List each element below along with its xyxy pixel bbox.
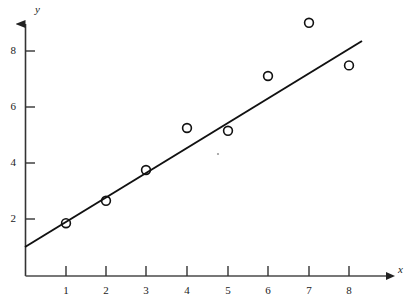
x-tick-label-1: 1 — [58, 285, 74, 296]
data-point — [264, 72, 273, 81]
stray-mark — [217, 153, 219, 155]
regression-line — [25, 41, 362, 247]
y-axis-title: y — [35, 4, 40, 15]
x-tick-label-2: 2 — [98, 285, 114, 296]
x-tick-label-3: 3 — [138, 285, 154, 296]
x-axis-title: x — [398, 264, 403, 275]
y-tick-label-6: 6 — [4, 101, 16, 112]
y-tick-label-8: 8 — [4, 45, 16, 56]
y-tick-label-4: 4 — [4, 157, 16, 168]
x-axis-ticks — [66, 266, 349, 276]
x-tick-label-7: 7 — [301, 285, 317, 296]
scatter-plot-figure: 2 4 6 8 1 2 3 4 5 6 7 8 y x — [0, 0, 411, 303]
data-point — [224, 126, 233, 135]
y-tick-label-2: 2 — [4, 213, 16, 224]
plot-canvas — [0, 0, 411, 303]
x-tick-label-8: 8 — [341, 285, 357, 296]
data-point — [183, 124, 192, 133]
x-tick-label-5: 5 — [220, 285, 236, 296]
data-points — [62, 18, 354, 227]
y-axis-ticks — [26, 51, 36, 219]
x-tick-label-4: 4 — [179, 285, 195, 296]
x-tick-label-6: 6 — [260, 285, 276, 296]
data-point — [345, 61, 354, 70]
data-point — [305, 18, 314, 27]
